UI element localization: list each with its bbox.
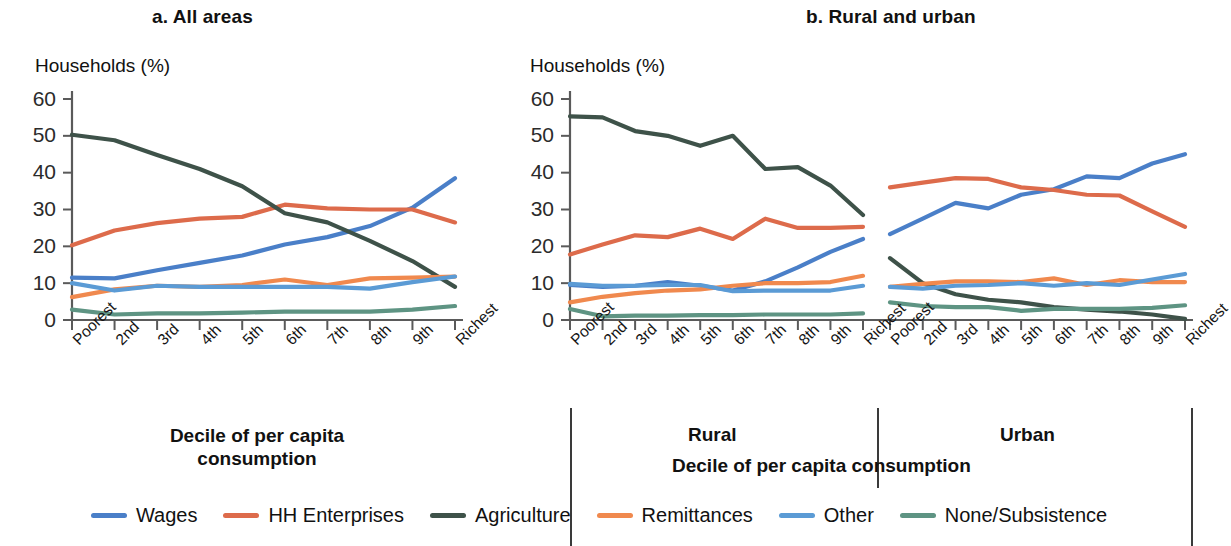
legend-swatch-icon (779, 513, 815, 518)
legend: WagesHH EnterprisesAgricultureRemittance… (0, 504, 1198, 527)
legend-label: None/Subsistence (945, 504, 1107, 527)
legend-label: Agriculture (475, 504, 571, 527)
series-line-rural-hh-enterprises (570, 219, 863, 255)
legend-swatch-icon (430, 513, 466, 518)
group-label-urban: Urban (1000, 424, 1055, 446)
legend-swatch-icon (597, 513, 633, 518)
legend-item-agriculture[interactable]: Agriculture (430, 504, 571, 527)
legend-swatch-icon (91, 513, 127, 518)
y-tick-label-b-50: 50 (531, 123, 554, 146)
panel-a-x-axis-caption: Decile of per capita consumption (112, 424, 402, 470)
panel-b-x-axis-caption: Decile of per capita consumption (672, 455, 971, 477)
y-tick-label-b-10: 10 (531, 271, 554, 294)
legend-item-other[interactable]: Other (779, 504, 874, 527)
y-tick-label-b-0: 0 (542, 308, 554, 331)
y-tick-label-b-20: 20 (531, 234, 554, 257)
series-line-rural-other (570, 284, 863, 291)
y-tick-label-b-60: 60 (531, 87, 554, 110)
legend-swatch-icon (223, 513, 259, 518)
group-label-rural: Rural (688, 424, 737, 446)
legend-label: Wages (136, 504, 198, 527)
legend-item-wages[interactable]: Wages (91, 504, 198, 527)
y-tick-label-b-40: 40 (531, 160, 554, 183)
legend-label: Other (824, 504, 874, 527)
legend-item-none-subsistence[interactable]: None/Subsistence (900, 504, 1107, 527)
legend-label: HH Enterprises (268, 504, 404, 527)
y-tick-label-b-30: 30 (531, 197, 554, 220)
legend-item-remittances[interactable]: Remittances (597, 504, 753, 527)
series-line-urban-wages (890, 154, 1185, 234)
legend-item-hh-enterprises[interactable]: HH Enterprises (223, 504, 404, 527)
series-line-urban-hh-enterprises (890, 178, 1185, 227)
legend-label: Remittances (642, 504, 753, 527)
legend-swatch-icon (900, 513, 936, 518)
series-line-rural-agriculture (570, 116, 863, 215)
